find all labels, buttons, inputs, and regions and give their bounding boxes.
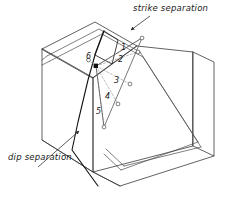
separation-label-2: 2 [118,55,123,64]
bed-trace-front-b [106,149,124,166]
separation-label-4: 4 [105,92,110,101]
fan-bound-lower [96,66,104,127]
separation-label-3: 3 [114,76,119,85]
block-diagram-svg: 1 2 3 4 5 6 [0,0,230,197]
origin-marker [94,64,98,68]
block-right-face [193,52,214,156]
block-dip-slope [93,46,193,172]
bed-trace-slope-b [143,57,201,147]
separation-label-1: 1 [121,43,126,52]
bed-trace-front-c [121,142,198,170]
separation-label-6: 6 [86,52,91,61]
bed-trace-left-b [42,61,50,65]
endpoint-marker-4 [116,102,120,106]
figure-canvas: 1 2 3 4 5 6 strike separation dip separa… [0,0,230,197]
endpoint-marker-5 [102,125,106,129]
separation-number-labels: 1 2 3 4 5 6 [86,43,126,116]
endpoint-marker-1 [140,36,144,40]
dip-separation-label: dip separation [8,152,72,162]
strike-separation-leader [131,16,150,30]
strike-separation-label: strike separation [133,3,208,13]
endpoint-marker-2 [136,50,140,54]
bed-trace-front-a [104,154,121,170]
separation-label-5: 5 [96,107,101,116]
bed-trace-front-d [124,147,201,166]
bed-trace-left-a [42,56,47,60]
endpoint-marker-3 [128,82,132,86]
